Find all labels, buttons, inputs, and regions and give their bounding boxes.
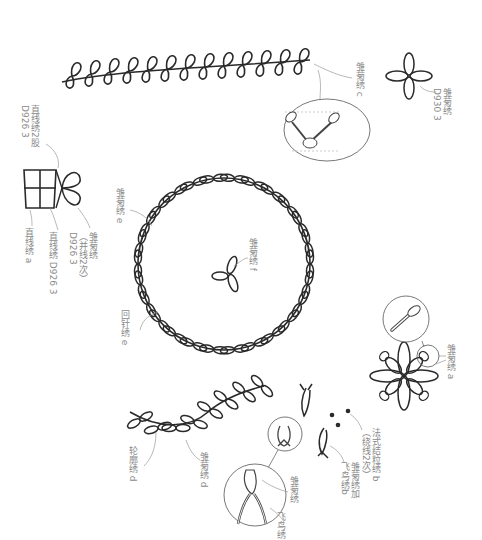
gift-box-icon bbox=[24, 170, 80, 208]
label-small-fly: 雏菊绣加 飞鸟绣b bbox=[340, 462, 360, 498]
eight-petal-flower-icon bbox=[370, 342, 438, 410]
magnifier-detail-icon bbox=[284, 99, 370, 161]
label-leaf-vine-top: 雏菊绣 c bbox=[355, 62, 365, 97]
label-fly-detail-fly: 飞鸟绣 bbox=[276, 512, 286, 539]
leaf-wreath-icon bbox=[134, 173, 314, 354]
label-gift-base: 直线绣 a bbox=[24, 228, 34, 263]
label-gift-bow-top: 直线绣2股 D926 3 bbox=[20, 105, 40, 147]
label-arc-daisy: 雏菊绣 d bbox=[199, 452, 209, 488]
leaf-vine-top bbox=[62, 49, 310, 88]
label-gift-lines: 直线绣 D926 3 bbox=[48, 232, 58, 295]
label-wreath-leaves: 雏菊绣 e bbox=[115, 188, 125, 223]
leaf-arc-branch bbox=[126, 374, 274, 435]
three-petal-center-icon bbox=[212, 255, 240, 293]
fly-stitch-icon bbox=[300, 384, 328, 458]
label-wreath-ring: 回针绣 e bbox=[120, 310, 130, 345]
french-knot-dots bbox=[330, 409, 351, 428]
label-gift-bow: 雏菊绣 （并线2次） D926 3 bbox=[68, 232, 98, 283]
label-four-petal-flower: 雏菊绣 D930 3 bbox=[432, 88, 452, 121]
magnifier-detail-icon bbox=[224, 417, 302, 526]
four-petal-flower-icon bbox=[386, 53, 432, 99]
label-wreath-center: 雏菊绣 f bbox=[248, 238, 258, 271]
label-arc-stem: 轮廓绣 d bbox=[128, 446, 138, 482]
label-french-knot: 法式结粒绣 b （绕线2次） bbox=[361, 428, 381, 482]
label-fly-detail-daisy: 雏菊绣 bbox=[289, 476, 299, 503]
label-big-flower: 雏菊绣 a bbox=[446, 344, 456, 379]
magnifier-detail-icon bbox=[383, 296, 439, 367]
